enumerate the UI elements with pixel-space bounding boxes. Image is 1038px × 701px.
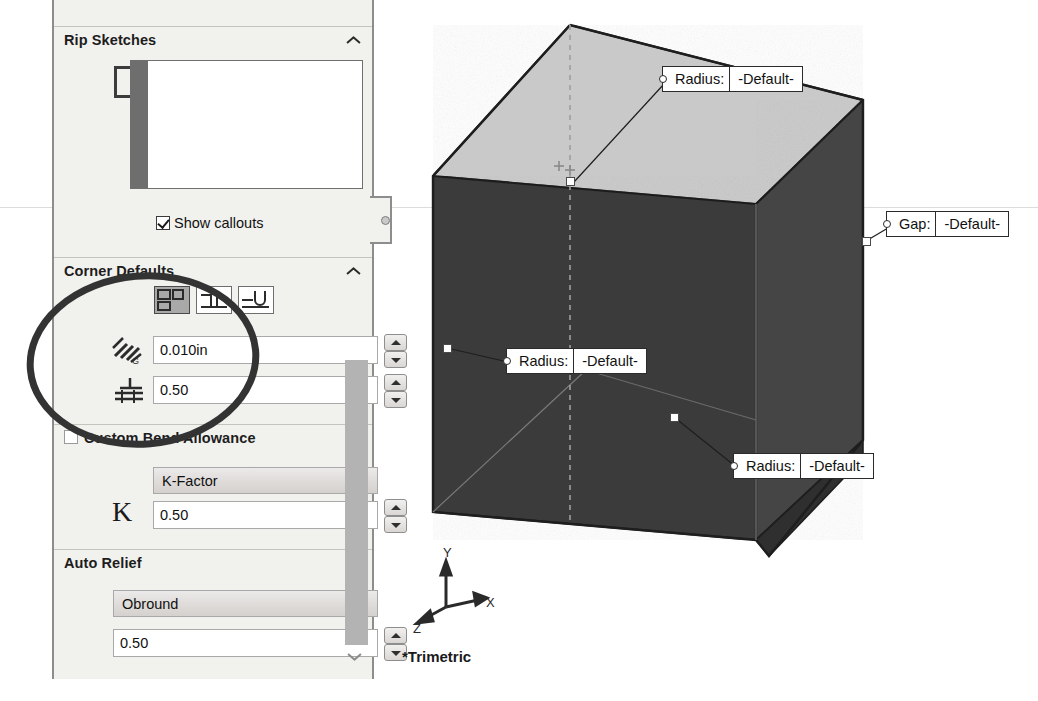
callout-value[interactable]: -Default- [729, 67, 802, 91]
callout-right-gap[interactable]: Gap: -Default- [886, 211, 1009, 237]
callout-left-radius[interactable]: Radius: -Default- [506, 348, 647, 374]
callout-anchor-icon [883, 220, 891, 228]
chevron-up-icon[interactable] [347, 34, 360, 43]
coordinate-triad-icon[interactable]: Y X Z [408, 545, 498, 635]
chevron-up-icon[interactable] [347, 265, 360, 274]
edge-handle-left[interactable] [443, 344, 452, 353]
group-header-auto-relief[interactable]: Auto Relief [54, 549, 372, 575]
auto-relief-type-select[interactable]: Obround [113, 590, 378, 617]
show-callouts-checkbox[interactable] [156, 216, 170, 230]
show-callouts-label: Show callouts [174, 215, 263, 231]
auto-relief-ratio-input[interactable]: 0.50 [113, 629, 378, 657]
callout-label: Gap: [887, 212, 935, 236]
callout-label: Radius: [507, 349, 573, 373]
group-title-rip-sketches: Rip Sketches [64, 32, 156, 48]
triad-label-x: X [486, 595, 495, 610]
triad-label-z: Z [413, 621, 421, 635]
callout-anchor-icon [503, 357, 511, 365]
rip-sketch-selection-box[interactable] [130, 60, 363, 189]
view-orientation-label: *Trimetric [402, 648, 471, 665]
edge-handle-top[interactable] [566, 177, 575, 186]
callout-anchor-icon [730, 462, 738, 470]
callout-value[interactable]: -Default- [935, 212, 1008, 236]
bend-allowance-type-value: K-Factor [162, 473, 218, 489]
edge-handle-bottom[interactable] [670, 413, 679, 422]
callout-top-radius[interactable]: Radius: -Default- [662, 66, 803, 92]
group-header-rip-sketches[interactable]: Rip Sketches [54, 26, 372, 52]
k-factor-icon: K [112, 496, 132, 528]
selection-box-gutter [131, 61, 148, 188]
k-factor-value: 0.50 [160, 507, 188, 523]
callout-label: Radius: [734, 454, 800, 478]
callout-label: Radius: [663, 67, 729, 91]
callout-value[interactable]: -Default- [800, 454, 873, 478]
callout-value[interactable]: -Default- [573, 349, 646, 373]
auto-relief-type-value: Obround [122, 596, 178, 612]
auto-relief-ratio-value: 0.50 [120, 635, 148, 651]
annotation-ellipse [18, 262, 268, 462]
panel-scrollbar[interactable] [345, 360, 368, 645]
chevron-down-icon[interactable] [345, 648, 368, 668]
callout-anchor-icon [659, 75, 667, 83]
group-title-auto-relief: Auto Relief [64, 555, 142, 571]
graphics-viewport[interactable]: Radius: -Default- Gap: -Default- Radius:… [386, 0, 1038, 701]
triad-label-y: Y [443, 545, 452, 560]
edge-handle-right[interactable] [862, 237, 871, 246]
callout-bottom-radius[interactable]: Radius: -Default- [733, 453, 874, 479]
